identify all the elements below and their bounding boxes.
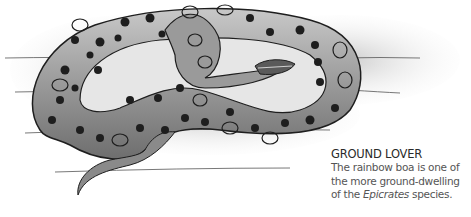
- caption-body-text-end: species.: [409, 188, 452, 200]
- caption-body-genus: Epicrates: [363, 188, 409, 200]
- caption: GROUND LOVER The rainbow boa is one of t…: [331, 147, 471, 202]
- snake-body: [32, 9, 360, 195]
- caption-title: GROUND LOVER: [331, 147, 471, 161]
- caption-body: The rainbow boa is one of the more groun…: [331, 161, 471, 202]
